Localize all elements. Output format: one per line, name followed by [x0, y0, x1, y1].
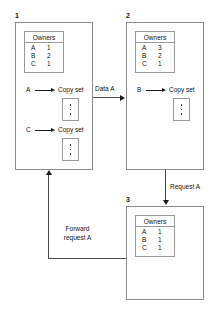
table-row: B 2 — [136, 52, 174, 60]
owners-header-2: Owners — [136, 32, 174, 43]
panel-1: Owners A 1 B 2 C 1 A Copy set — [15, 22, 93, 170]
owner-key: A — [25, 44, 44, 52]
connector-data-a-line — [93, 97, 121, 98]
copy-set-label: Copy set — [169, 86, 195, 94]
table-row: A 3 — [136, 44, 174, 52]
table-row: C 1 — [25, 60, 63, 68]
panel-number-2: 2 — [126, 12, 130, 20]
owners-rows-3: A 1 B 1 C 1 — [136, 227, 174, 252]
owner-value: 2 — [155, 52, 174, 60]
panel-number-3: 3 — [126, 196, 130, 204]
arrow-head-up-icon — [46, 170, 52, 175]
owners-header-1: Owners — [25, 32, 63, 43]
owner-key: A — [136, 44, 155, 52]
arrow-head-icon — [51, 128, 55, 132]
owners-rows-2: A 3 B 2 C 1 — [136, 43, 174, 68]
copy-set-group-c-1: C Copy set — [26, 126, 92, 136]
owner-key: C — [136, 244, 155, 252]
connector-label-forward-request-a: Forward request A — [55, 224, 100, 242]
panel-3: Owners A 1 B 1 C 1 — [126, 206, 204, 300]
owner-key: C — [25, 60, 44, 68]
copy-set-group-a-1: A Copy set — [26, 86, 92, 96]
owner-value: 1 — [155, 228, 174, 236]
panel-number-1: 1 — [15, 12, 19, 20]
copy-set-source-label: A — [26, 86, 30, 94]
diagram-canvas: 1 Owners A 1 B 2 C 1 A — [0, 0, 214, 310]
owner-value: 2 — [44, 52, 63, 60]
dot-icon — [181, 113, 183, 115]
owner-value: 1 — [155, 236, 174, 244]
dot-icon — [70, 109, 72, 111]
owner-value: 1 — [155, 244, 174, 252]
owner-value: 1 — [44, 44, 63, 52]
connector-request-a-line — [165, 170, 166, 201]
arrow-head-down-icon — [163, 200, 169, 205]
connector-label-data-a: Data A — [95, 84, 115, 93]
forward-label-line-1: Forward — [55, 224, 100, 233]
copy-set-group-b-2: B Copy set — [137, 86, 203, 96]
owners-table-1: Owners A 1 B 2 C 1 — [24, 31, 64, 73]
connector-forward-request-a-horizontal — [48, 258, 126, 259]
copy-set-box-c-1 — [62, 138, 79, 161]
table-row: B 2 — [25, 52, 63, 60]
panel-2: Owners A 3 B 2 C 1 B Copy set — [126, 22, 204, 170]
dot-icon — [181, 109, 183, 111]
owner-key: C — [136, 60, 155, 68]
owner-key: B — [136, 236, 155, 244]
owners-header-3: Owners — [136, 216, 174, 227]
table-row: C 1 — [136, 244, 174, 252]
dot-icon — [70, 153, 72, 155]
dot-icon — [70, 144, 72, 146]
dot-icon — [70, 104, 72, 106]
table-row: A 1 — [25, 44, 63, 52]
arrow-head-icon — [51, 88, 55, 92]
arrow-head-icon — [162, 88, 166, 92]
connector-forward-request-a-vertical — [48, 175, 49, 259]
owners-rows-1: A 1 B 2 C 1 — [25, 43, 63, 68]
arrow-line-icon — [146, 90, 163, 91]
owner-value: 1 — [155, 60, 174, 68]
table-row: B 1 — [136, 236, 174, 244]
copy-set-source-label: B — [137, 86, 141, 94]
dot-icon — [181, 104, 183, 106]
arrow-line-icon — [35, 130, 52, 131]
connector-label-request-a: Request A — [170, 182, 200, 191]
table-row: A 1 — [136, 228, 174, 236]
copy-set-source-label: C — [26, 126, 31, 134]
forward-label-line-2: request A — [55, 233, 100, 242]
copy-set-box-b-2 — [173, 98, 190, 121]
copy-set-label: Copy set — [58, 86, 84, 94]
owners-table-2: Owners A 3 B 2 C 1 — [135, 31, 175, 73]
dot-icon — [70, 149, 72, 151]
copy-set-box-a-1 — [62, 98, 79, 121]
owners-table-3: Owners A 1 B 1 C 1 — [135, 215, 175, 257]
dot-icon — [70, 113, 72, 115]
table-row: C 1 — [136, 60, 174, 68]
owner-value: 3 — [155, 44, 174, 52]
owner-key: B — [25, 52, 44, 60]
owner-key: B — [136, 52, 155, 60]
arrow-line-icon — [35, 90, 52, 91]
arrow-head-right-icon — [120, 95, 125, 101]
owner-value: 1 — [44, 60, 63, 68]
owner-key: A — [136, 228, 155, 236]
copy-set-label: Copy set — [58, 126, 84, 134]
